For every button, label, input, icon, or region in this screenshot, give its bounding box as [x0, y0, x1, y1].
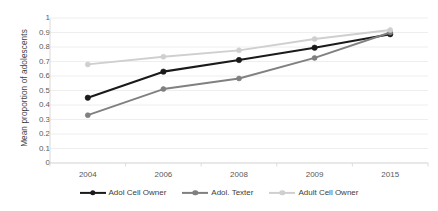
data-point — [312, 55, 317, 60]
legend-item[interactable]: Adult Cell Owner — [269, 188, 358, 197]
legend-marker — [193, 190, 198, 195]
legend-marker — [280, 190, 285, 195]
data-point — [236, 57, 241, 62]
data-point — [388, 28, 393, 33]
data-point — [312, 37, 317, 42]
data-point — [85, 95, 90, 100]
data-point — [237, 76, 242, 81]
data-point — [85, 62, 90, 67]
x-tick-label: 2009 — [306, 171, 324, 179]
data-point — [85, 113, 90, 118]
line-chart: Mean proportion of adolescents 10.90.80.… — [0, 0, 438, 211]
data-point — [312, 45, 317, 50]
legend-label: Adol. Texter — [211, 189, 253, 197]
series-line — [85, 30, 392, 118]
legend-item[interactable]: Adol. Texter — [182, 188, 253, 197]
x-tick-label: 2004 — [79, 171, 97, 179]
x-tick-label: 2006 — [154, 171, 172, 179]
chart-legend: Adol Cell OwnerAdol. TexterAdult Cell Ow… — [0, 188, 438, 197]
line-marker-icon — [80, 188, 106, 197]
data-point — [161, 54, 166, 59]
x-tick-label: 2015 — [381, 171, 399, 179]
data-point — [237, 48, 242, 53]
legend-label: Adult Cell Owner — [298, 189, 358, 197]
data-point — [161, 69, 166, 74]
legend-marker — [90, 190, 95, 195]
line-marker-icon — [269, 188, 295, 197]
data-point — [161, 87, 166, 92]
x-axis-ticks — [50, 163, 428, 167]
plot-area — [0, 0, 438, 211]
legend-label: Adol Cell Owner — [109, 189, 167, 197]
line-marker-icon — [182, 188, 208, 197]
x-tick-label: 2008 — [230, 171, 248, 179]
legend-item[interactable]: Adol Cell Owner — [80, 188, 167, 197]
